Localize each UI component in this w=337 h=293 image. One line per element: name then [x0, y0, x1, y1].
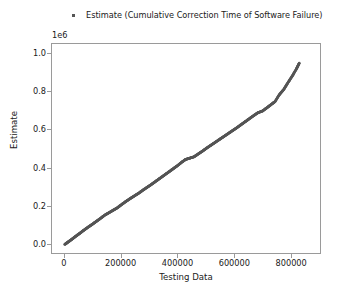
x-tick-label: 400000 — [162, 258, 193, 268]
series-points — [63, 62, 300, 246]
y-tick-label: 0.8 — [33, 86, 46, 96]
legend-label: Estimate (Cumulative Correction Time of … — [86, 10, 323, 20]
y-tick-label: 0.2 — [33, 201, 46, 211]
y-tick-label: 1.0 — [33, 48, 46, 58]
x-axis-title: Testing Data — [51, 272, 321, 282]
y-tick-label: 0.4 — [33, 163, 46, 173]
plot-area — [51, 43, 321, 254]
x-tick-label: 0 — [61, 258, 66, 268]
x-tick-label: 800000 — [276, 258, 307, 268]
data-series-svg — [52, 44, 322, 255]
x-tick-label: 200000 — [105, 258, 136, 268]
y-tick-label: 0.6 — [33, 124, 46, 134]
y-axis-title: Estimate — [9, 85, 19, 175]
chart-figure: Estimate (Cumulative Correction Time of … — [0, 0, 337, 293]
chart-legend: Estimate (Cumulative Correction Time of … — [60, 6, 323, 24]
y-axis-offset-text: 1e6 — [52, 30, 67, 40]
x-tick-label: 600000 — [219, 258, 250, 268]
legend-marker-icon — [60, 14, 86, 17]
y-tick-label-group: 0.00.20.40.60.81.0 — [0, 0, 46, 293]
y-tick-label: 0.0 — [33, 239, 46, 249]
